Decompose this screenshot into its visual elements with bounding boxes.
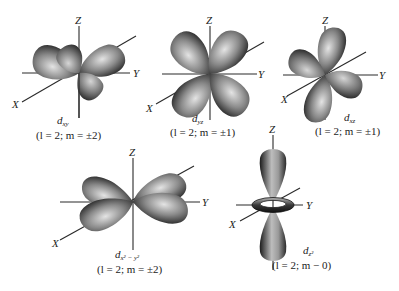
x-axis-label: X xyxy=(11,98,20,110)
orbital-name-dz2: dz² xyxy=(303,244,314,258)
y-axis-label: Y xyxy=(379,69,387,81)
x-axis-label: X xyxy=(51,237,60,249)
z-axis-label: Z xyxy=(269,123,276,135)
orbital-name-dxz: dxz xyxy=(344,111,356,125)
orbital-dz2: Z Y X dz² (l = 2; m − 0) xyxy=(228,123,331,272)
orbital-name-dxy: dxy xyxy=(57,114,70,128)
d-orbitals-diagram: Z Y X dxy (l = 2; m = ±2) Z Y X dyz (l =… xyxy=(0,0,399,291)
orbital-dxz: Z Y X dxz (l = 2; m = ±1) xyxy=(280,14,387,138)
y-axis-label: Y xyxy=(133,67,141,79)
y-axis-label: Y xyxy=(258,68,266,80)
orbital-dxy: Z Y X dxy (l = 2; m = ±2) xyxy=(11,14,141,142)
y-axis-label: Y xyxy=(202,196,210,208)
z-axis-label: Z xyxy=(129,146,136,158)
z-axis-label: Z xyxy=(322,14,329,26)
x-axis-label: X xyxy=(228,218,237,230)
orbital-name-dx2-y2: dx² − y² xyxy=(115,248,140,262)
quantum-numbers-dxz: (l = 2; m = ±1) xyxy=(315,125,381,138)
orbital-dyz: Z Y X dyz (l = 2; m = ±1) xyxy=(145,14,266,139)
orbital-dx2-y2: Z Y X dx² − y² (l = 2; m = ±2) xyxy=(51,146,210,276)
x-axis-label: X xyxy=(145,102,154,114)
quantum-numbers-dz2: (l = 2; m − 0) xyxy=(272,259,331,272)
quantum-numbers-dyz: (l = 2; m = ±1) xyxy=(170,126,236,139)
y-axis-label: Y xyxy=(306,199,314,211)
quantum-numbers-dxy: (l = 2; m = ±2) xyxy=(36,129,102,142)
quantum-numbers-dx2-y2: (l = 2; m = ±2) xyxy=(97,263,163,276)
x-axis-label: X xyxy=(280,93,289,105)
z-axis-label: Z xyxy=(75,14,82,26)
z-axis-label: Z xyxy=(206,14,213,26)
